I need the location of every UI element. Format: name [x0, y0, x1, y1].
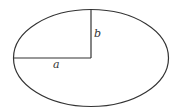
ellipse-diagram: a b [0, 0, 175, 111]
label-a: a [53, 58, 60, 71]
label-b: b [94, 27, 101, 40]
